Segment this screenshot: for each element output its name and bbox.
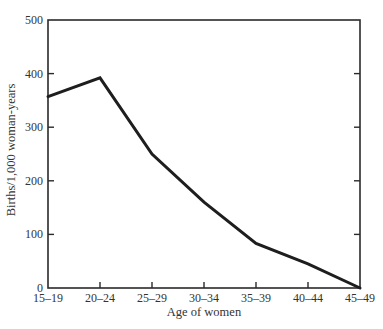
- x-tick-label: 35–39: [241, 291, 271, 305]
- x-axis-title: Age of women: [167, 305, 242, 319]
- x-tick-label: 25–29: [137, 291, 167, 305]
- y-tick-label: 200: [25, 174, 43, 188]
- y-tick-label: 100: [25, 227, 43, 241]
- plot-frame: [48, 20, 360, 288]
- y-axis-ticks: 0100200300400500: [25, 13, 360, 295]
- x-tick-label: 40–44: [293, 291, 323, 305]
- y-axis-title: Births/1,000 woman-years: [4, 84, 18, 217]
- x-tick-label: 30–34: [189, 291, 219, 305]
- data-line: [48, 78, 360, 288]
- x-tick-label: 45–49: [345, 291, 375, 305]
- y-tick-label: 400: [25, 67, 43, 81]
- x-tick-label: 15–19: [33, 291, 63, 305]
- y-tick-label: 500: [25, 13, 43, 27]
- y-tick-label: 300: [25, 120, 43, 134]
- line-chart: 0100200300400500 15–1920–2425–2930–3435–…: [0, 0, 383, 329]
- x-tick-label: 20–24: [85, 291, 115, 305]
- x-axis-ticks: 15–1920–2425–2930–3435–3940–4445–49: [33, 282, 375, 305]
